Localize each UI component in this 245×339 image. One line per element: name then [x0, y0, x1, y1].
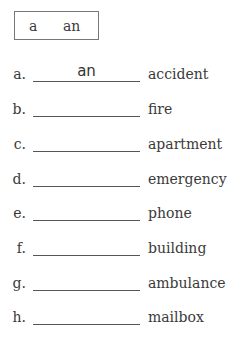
- item-label: b.: [0, 101, 26, 117]
- exercise-item: e. phone: [0, 205, 245, 225]
- item-label: h.: [0, 309, 26, 325]
- answer-blank[interactable]: [33, 186, 140, 187]
- item-word: apartment: [148, 136, 222, 152]
- answer-blank[interactable]: [33, 220, 140, 221]
- exercise-item: g. ambulance: [0, 275, 245, 295]
- item-label: g.: [0, 275, 26, 291]
- answer-blank[interactable]: [33, 116, 140, 117]
- item-word: ambulance: [148, 275, 226, 291]
- answer-text: an: [33, 62, 140, 80]
- exercise-item: d. emergency: [0, 171, 245, 191]
- item-label: e.: [0, 205, 26, 221]
- exercise-item: a. an accident: [0, 66, 245, 86]
- item-word: building: [148, 240, 206, 256]
- answer-blank[interactable]: [33, 290, 140, 291]
- answer-blank[interactable]: [33, 151, 140, 152]
- word-bank-box: a an: [14, 11, 99, 40]
- answer-blank[interactable]: [33, 81, 140, 82]
- word-option-a: a: [29, 18, 37, 34]
- item-label: f.: [0, 240, 26, 256]
- exercise-item: f. building: [0, 240, 245, 260]
- item-word: phone: [148, 205, 192, 221]
- item-word: emergency: [148, 171, 227, 187]
- answer-blank[interactable]: [33, 324, 140, 325]
- item-word: mailbox: [148, 309, 204, 325]
- item-label: c.: [0, 136, 26, 152]
- answer-blank[interactable]: [33, 255, 140, 256]
- item-label: a.: [0, 66, 26, 82]
- exercise-item: h. mailbox: [0, 309, 245, 329]
- item-word: accident: [148, 66, 208, 82]
- exercise-item: c. apartment: [0, 136, 245, 156]
- word-option-an: an: [63, 18, 80, 34]
- item-label: d.: [0, 171, 26, 187]
- exercise-item: b. fire: [0, 101, 245, 121]
- item-word: fire: [148, 101, 172, 117]
